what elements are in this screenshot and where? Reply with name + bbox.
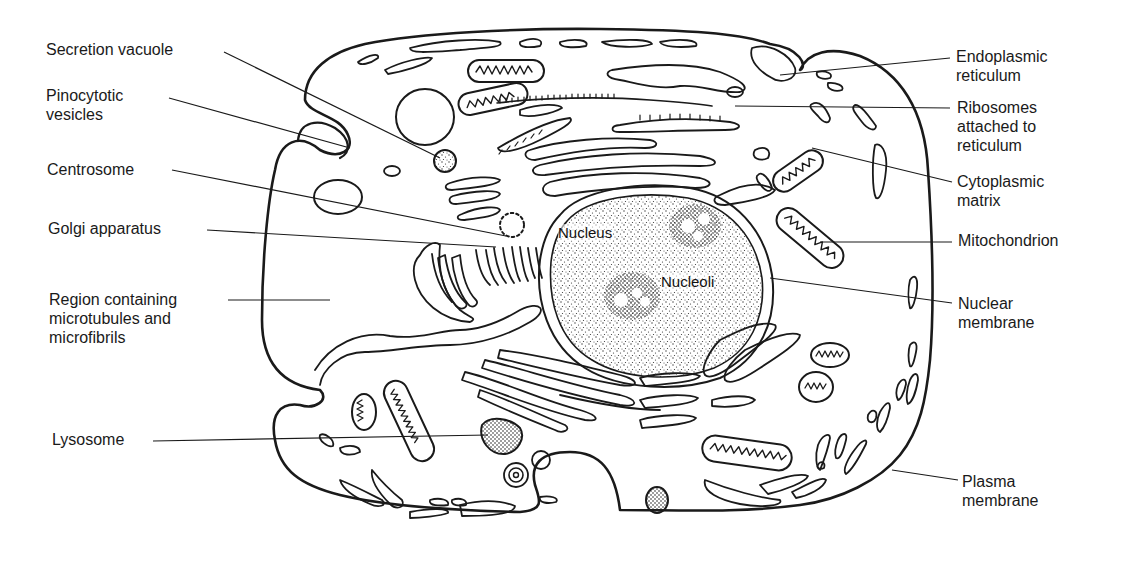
label-lysosome: Lysosome — [52, 430, 124, 449]
label-line: microtubules and — [49, 309, 177, 328]
label-line: attached to — [957, 117, 1037, 136]
label-region-microtubules: Region containing microtubules and micro… — [49, 290, 177, 347]
label-line: Endoplasmic — [956, 47, 1048, 66]
label-line: Plasma — [962, 472, 1038, 491]
label-line: membrane — [958, 313, 1034, 332]
label-nucleoli: Nucleoli — [661, 273, 714, 290]
label-line: vesicles — [46, 105, 123, 124]
label-plasma-membrane: Plasma membrane — [962, 472, 1038, 510]
label-line: Lysosome — [52, 430, 124, 449]
label-line: microfibrils — [49, 328, 177, 347]
lysosome-body — [481, 419, 522, 454]
label-golgi-apparatus: Golgi apparatus — [48, 219, 161, 238]
label-line: Centrosome — [47, 160, 134, 179]
label-line: reticulum — [956, 66, 1048, 85]
label-nuclear-membrane: Nuclear membrane — [958, 294, 1034, 332]
label-line: Ribosomes — [957, 98, 1037, 117]
label-endoplasmic-reticulum: Endoplasmic reticulum — [956, 47, 1048, 85]
centrosome-marker — [500, 213, 524, 237]
label-centrosome: Centrosome — [47, 160, 134, 179]
nucleolus-upper — [669, 204, 721, 248]
label-secretion-vacuole: Secretion vacuole — [46, 40, 173, 59]
label-nucleus: Nucleus — [558, 224, 612, 241]
secretion-vacuole-granule — [434, 150, 456, 172]
label-line: Mitochondrion — [958, 231, 1059, 250]
label-line: Cytoplasmic — [957, 172, 1044, 191]
label-pinocytotic-vesicles: Pinocytotic vesicles — [46, 86, 123, 124]
nucleolus-lower — [604, 272, 660, 320]
label-line: Golgi apparatus — [48, 219, 161, 238]
label-line: Nuclear — [958, 294, 1034, 313]
label-line: reticulum — [957, 136, 1037, 155]
golgi-stack — [476, 247, 542, 285]
label-line: Pinocytotic — [46, 86, 123, 105]
label-mitochondrion: Mitochondrion — [958, 231, 1059, 250]
label-line: membrane — [962, 491, 1038, 510]
label-cytoplasmic-matrix: Cytoplasmic matrix — [957, 172, 1044, 210]
label-line: matrix — [957, 191, 1044, 210]
label-ribosomes: Ribosomes attached to reticulum — [957, 98, 1037, 155]
label-line: Secretion vacuole — [46, 40, 173, 59]
cell-diagram: Secretion vacuole Pinocytotic vesicles C… — [0, 0, 1144, 561]
label-line: Region containing — [49, 290, 177, 309]
